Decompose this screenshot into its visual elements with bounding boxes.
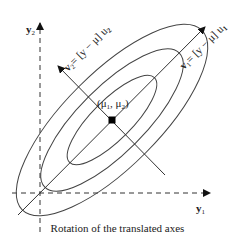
center-point	[109, 117, 116, 124]
center-label: (μ1, μ2)	[97, 97, 129, 111]
v2-label: v2= [y − μ] u2	[61, 22, 114, 75]
figure-caption: Rotation of the translated axes	[0, 222, 235, 234]
v1-label: v1= [y − μ] u1	[177, 20, 230, 73]
y2-label: y2	[26, 23, 36, 37]
svg-text:v1= [y − μ] u1: v1= [y − μ] u1	[177, 20, 230, 73]
svg-text:v2= [y − μ] u2: v2= [y − μ] u2	[61, 22, 114, 75]
y1-label: y1	[196, 202, 206, 216]
diagram-canvas: (μ1, μ2) y2 y1 v2= [y − μ] u2 v1= [y − μ…	[0, 0, 235, 242]
